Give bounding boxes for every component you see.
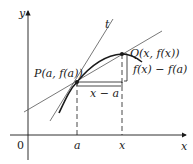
point-q — [120, 52, 124, 56]
point-p — [75, 80, 79, 84]
horizontal-difference-label: x − a — [90, 87, 119, 100]
vertical-difference-label: f(x) − f(a) — [132, 63, 187, 76]
point-q-label: Q(x, f(x)) — [130, 47, 180, 60]
tangent-label: t — [105, 18, 110, 31]
origin-label: 0 — [17, 139, 24, 152]
horizontal-bracket — [77, 82, 122, 86]
vertical-bracket — [124, 54, 127, 81]
point-p-label: P(a, f(a)) — [33, 67, 83, 80]
tick-label-x: x — [119, 139, 126, 152]
diagram-canvas: y x 0 a x t P(a, f(a)) Q(x, f(x)) f(x) −… — [0, 0, 193, 164]
function-curve — [59, 54, 142, 113]
tick-label-a: a — [74, 139, 81, 152]
x-axis-label: x — [181, 140, 188, 153]
y-axis-label: y — [18, 7, 26, 20]
